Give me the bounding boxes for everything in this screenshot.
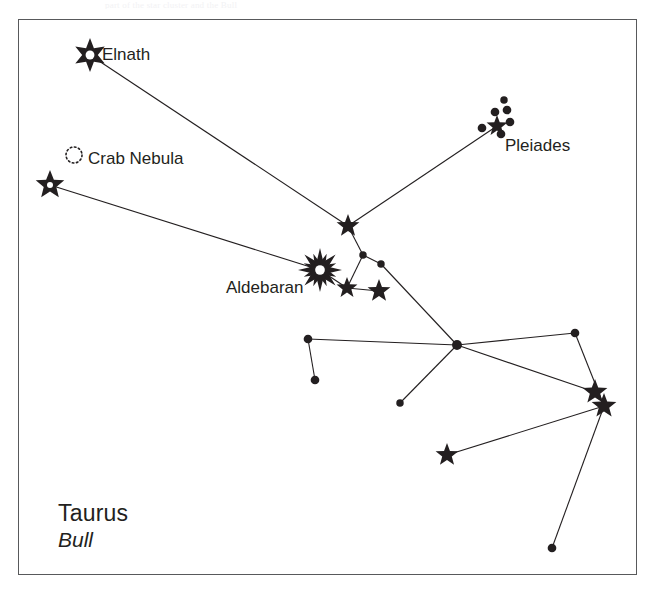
constellation-line: [308, 339, 457, 345]
star-symbol-star-b: [368, 279, 391, 301]
star-symbol-star-a: [337, 277, 358, 297]
star-symbol-pl-3: [503, 106, 512, 115]
constellation-line: [50, 185, 320, 270]
label-crab-nebula: Crab Nebula: [88, 149, 183, 169]
star-symbol-zeta: [36, 170, 65, 197]
star-symbol-crab: [66, 147, 82, 163]
constellation-line: [90, 55, 348, 226]
star-symbol-layer: [36, 38, 617, 552]
constellation-line: [457, 345, 595, 392]
star-symbol-star-e: [436, 443, 459, 465]
constellation-name: Taurus: [58, 500, 128, 527]
label-aldebaran: Aldebaran: [226, 278, 304, 298]
constellation-common-name: Bull: [58, 528, 93, 552]
star-symbol-pl-6: [500, 96, 507, 103]
star-symbol-dot-b: [377, 260, 384, 267]
star-symbol-hub: [452, 340, 462, 350]
constellation-line: [347, 255, 363, 288]
star-symbol-dot-a: [359, 251, 366, 258]
constellation-line: [348, 126, 497, 226]
constellation-line: [457, 333, 575, 345]
star-symbol-elnath: [75, 38, 104, 72]
star-symbol-dot-f: [571, 329, 580, 338]
constellation-line: [400, 345, 457, 403]
constellation-line: [552, 406, 604, 548]
label-pleiades: Pleiades: [505, 136, 570, 156]
constellation-line-layer: [50, 55, 604, 548]
star-symbol-dot-c: [304, 335, 313, 344]
constellation-line: [381, 264, 457, 345]
star-symbol-pl-4: [506, 118, 515, 127]
star-symbol-pl-1: [478, 124, 487, 133]
constellation-line: [308, 339, 315, 380]
constellation-chart: part of the star cluster and the Bull El…: [0, 0, 655, 592]
star-symbol-dot-g: [548, 544, 557, 553]
star-symbol-aldebaran: [298, 248, 342, 292]
label-elnath: Elnath: [102, 45, 150, 65]
star-symbol-pl-2: [491, 108, 500, 117]
constellation-line: [447, 406, 604, 455]
star-symbol-junction: [337, 214, 360, 236]
star-symbol-dot-e: [396, 399, 403, 406]
star-symbol-dot-d: [311, 376, 320, 385]
